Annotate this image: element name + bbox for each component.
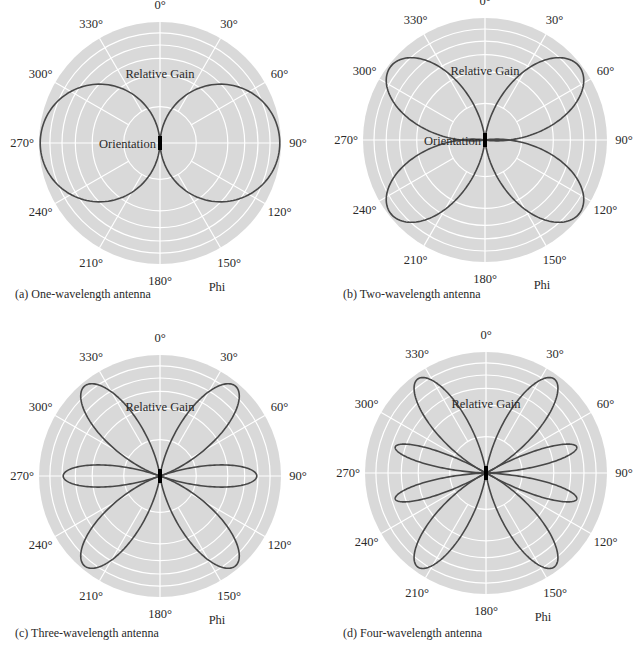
angle-tick-label: 270° (334, 133, 358, 147)
angle-tick-label: 90° (289, 136, 307, 150)
angle-axis-label: Phi (534, 278, 551, 292)
polar-plot-c: 0°30°60°90°120°150°180°210°240°270°300°3… (10, 331, 307, 627)
angle-tick-label: 90° (615, 133, 633, 147)
angle-tick-label: 210° (405, 586, 429, 600)
radial-axis-label: Relative Gain (125, 400, 195, 414)
angle-axis-label: Phi (209, 280, 226, 294)
angle-tick-label: 120° (268, 205, 292, 219)
angle-axis-label: Phi (209, 613, 226, 627)
angle-tick-label: 270° (10, 469, 34, 483)
angle-tick-label: 180° (474, 604, 498, 618)
polar-plot-b: 0°30°60°90°120°150°180°210°240°270°300°3… (334, 0, 633, 292)
angle-tick-label: 150° (543, 253, 567, 267)
caption-b: (b) Two-wavelength antenna (343, 287, 481, 302)
angle-axis-label: Phi (535, 610, 552, 624)
angle-tick-label: 0° (479, 0, 490, 8)
angle-tick-label: 210° (404, 253, 428, 267)
angle-tick-label: 0° (154, 331, 165, 345)
angle-tick-label: 150° (217, 589, 241, 603)
angle-tick-label: 300° (29, 67, 53, 81)
antenna-element (158, 136, 162, 150)
angle-tick-label: 180° (148, 274, 172, 288)
angle-tick-label: 60° (271, 400, 289, 414)
angle-tick-label: 60° (597, 64, 615, 78)
angle-tick-label: 120° (268, 538, 292, 552)
angle-tick-label: 120° (594, 535, 618, 549)
angle-tick-label: 330° (404, 13, 428, 27)
angle-tick-label: 30° (546, 13, 564, 27)
polar-plot-d: 0°30°60°90°120°150°180°210°240°270°300°3… (336, 328, 633, 624)
radial-axis-label: Relative Gain (450, 64, 520, 78)
polar-plot-a: 0°30°60°90°120°150°180°210°240°270°300°3… (10, 0, 307, 294)
angle-tick-label: 240° (29, 538, 53, 552)
antenna-element (158, 469, 162, 483)
caption-c: (c) Three-wavelength antenna (15, 626, 159, 641)
angle-tick-label: 240° (353, 203, 377, 217)
angle-tick-label: 30° (220, 350, 238, 364)
angle-tick-label: 270° (10, 136, 34, 150)
angle-tick-label: 0° (154, 0, 165, 12)
angle-tick-label: 30° (220, 17, 238, 31)
angle-tick-label: 330° (405, 347, 429, 361)
angle-tick-label: 150° (543, 586, 567, 600)
angle-tick-label: 210° (79, 256, 103, 270)
angle-tick-label: 300° (355, 397, 379, 411)
angle-tick-label: 180° (473, 272, 497, 286)
antenna-element (484, 466, 488, 480)
angle-tick-label: 120° (594, 203, 618, 217)
angle-tick-label: 150° (217, 256, 241, 270)
angle-tick-label: 240° (355, 535, 379, 549)
orientation-label: Orientation (99, 137, 157, 151)
radial-axis-label: Relative Gain (451, 397, 521, 411)
angle-tick-label: 330° (79, 350, 103, 364)
angle-tick-label: 330° (79, 17, 103, 31)
angle-tick-label: 60° (597, 397, 615, 411)
caption-d: (d) Four-wavelength antenna (343, 626, 482, 641)
angle-tick-label: 0° (480, 328, 491, 342)
angle-tick-label: 240° (29, 205, 53, 219)
antenna-element (483, 133, 487, 147)
angle-tick-label: 300° (353, 64, 377, 78)
caption-a: (a) One-wavelength antenna (15, 287, 151, 302)
angle-tick-label: 90° (615, 466, 633, 480)
polar-plots-canvas: 0°30°60°90°120°150°180°210°240°270°300°3… (0, 0, 637, 654)
radial-axis-label: Relative Gain (125, 67, 195, 81)
angle-tick-label: 210° (79, 589, 103, 603)
angle-tick-label: 270° (336, 466, 360, 480)
angle-tick-label: 180° (148, 607, 172, 621)
orientation-label: Orientation (424, 134, 482, 148)
angle-tick-label: 30° (546, 347, 564, 361)
angle-tick-label: 300° (29, 400, 53, 414)
angle-tick-label: 60° (271, 67, 289, 81)
angle-tick-label: 90° (289, 469, 307, 483)
